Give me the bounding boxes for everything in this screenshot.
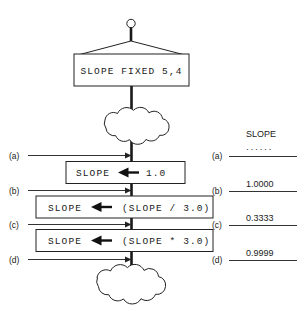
hanging-sign-icon (76, 19, 187, 55)
statement-2-expression: (SLOPE / 3.0) (122, 203, 210, 214)
value-row-c-value: 0.3333 (246, 213, 274, 223)
statement-1-target: SLOPE (76, 168, 110, 179)
statement-box-1: SLOPE 1.0 (66, 162, 185, 184)
probe-arrow-a (28, 153, 132, 159)
cloud-top (104, 107, 169, 144)
probe-label-d: (d) (9, 255, 20, 265)
diagram-canvas: SLOPE FIXED 5,4 (a) SLOPE 1.0 (0, 0, 304, 309)
value-row-a-value: ······ (246, 144, 273, 154)
statement-box-2: SLOPE (SLOPE / 3.0) (36, 196, 213, 218)
statement-3-target: SLOPE (48, 236, 82, 247)
value-row-d: (d) 0.9999 (212, 248, 297, 265)
value-row-d-key: (d) (212, 255, 223, 265)
declaration-text: SLOPE FIXED 5,4 (80, 66, 182, 77)
flow-diagram: SLOPE FIXED 5,4 (a) SLOPE 1.0 (0, 0, 304, 309)
value-row-a-key: (a) (212, 151, 223, 161)
probe-arrow-b (28, 188, 132, 194)
statement-2-target: SLOPE (48, 203, 82, 214)
probe-arrow-d (28, 257, 132, 263)
statement-1-expression: 1.0 (146, 168, 166, 179)
probe-arrow-c (28, 222, 132, 228)
value-row-c: (c) 0.3333 (212, 213, 297, 230)
probe-label-b: (b) (9, 186, 20, 196)
statement-box-3: SLOPE (SLOPE * 3.0) (36, 230, 213, 252)
probe-label-c: (c) (9, 220, 19, 230)
cloud-bottom (97, 264, 166, 304)
value-row-b-value: 1.0000 (246, 179, 274, 189)
probe-label-a: (a) (9, 151, 20, 161)
declaration-box: SLOPE FIXED 5,4 (74, 54, 189, 86)
value-row-a: (a) ······ (212, 144, 297, 161)
value-row-b: (b) 1.0000 (212, 179, 297, 196)
value-row-d-value: 0.9999 (246, 248, 274, 258)
statement-3-expression: (SLOPE * 3.0) (122, 236, 210, 247)
value-row-b-key: (b) (212, 186, 223, 196)
value-row-c-key: (c) (212, 220, 222, 230)
value-table-header: SLOPE (246, 129, 276, 139)
